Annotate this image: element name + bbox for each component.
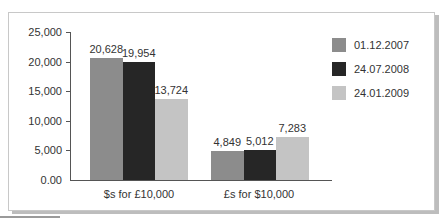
y-tick	[66, 32, 70, 33]
bar-series3-cat1	[155, 99, 188, 180]
legend-item: 24.07.2008	[332, 61, 409, 77]
y-tick	[66, 150, 70, 151]
bar-series1-cat1	[90, 58, 123, 180]
legend-label: 24.01.2009	[354, 87, 409, 99]
y-tick-label: 20,000	[6, 56, 62, 68]
x-axis	[70, 180, 332, 181]
bar-chart: 0.00 5,000 10,000 15,000 20,000 25,000 2…	[0, 0, 448, 224]
bar-series2-cat2	[244, 150, 277, 180]
data-label: 5,012	[240, 135, 280, 147]
y-tick-label: 15,000	[6, 85, 62, 97]
x-category-label: $s for £10,000	[79, 188, 199, 200]
legend-item: 24.01.2009	[332, 85, 409, 101]
legend-swatch	[332, 62, 346, 76]
y-tick-label: 10,000	[6, 115, 62, 127]
bar-series1-cat2	[211, 151, 244, 180]
y-tick-label: 5,000	[6, 144, 62, 156]
y-tick	[66, 62, 70, 63]
legend-swatch	[332, 38, 346, 52]
data-label: 19,954	[119, 47, 159, 59]
y-tick	[66, 91, 70, 92]
data-label: 7,283	[272, 122, 312, 134]
legend-item: 01.12.2007	[332, 37, 409, 53]
legend-swatch	[332, 86, 346, 100]
y-axis	[70, 32, 71, 181]
y-tick	[66, 121, 70, 122]
x-category-label: £s for $10,000	[199, 188, 319, 200]
y-tick-label: 0.00	[6, 174, 62, 186]
y-tick-label: 25,000	[6, 26, 62, 38]
bar-series3-cat2	[276, 137, 309, 180]
bar-series2-cat1	[123, 62, 156, 180]
legend-label: 24.07.2008	[354, 63, 409, 75]
legend-label: 01.12.2007	[354, 39, 409, 51]
data-label: 13,724	[151, 84, 191, 96]
